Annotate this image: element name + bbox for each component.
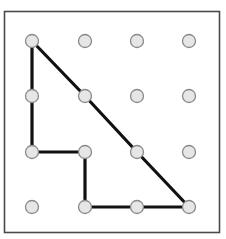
peg-r3-c1 [79,201,92,214]
peg-r2-c1 [79,146,92,159]
peg-r0-c1 [79,35,92,48]
peg-r3-c2 [131,201,144,214]
peg-r3-c0 [26,201,39,214]
geoboard [0,0,226,239]
peg-r0-c3 [183,35,196,48]
peg-r2-c2 [131,146,144,159]
peg-r1-c2 [131,90,144,103]
peg-r2-c0 [26,146,39,159]
polygon-shape [32,41,189,207]
peg-r0-c2 [131,35,144,48]
peg-r1-c0 [26,90,39,103]
peg-r3-c3 [183,201,196,214]
peg-r1-c1 [79,90,92,103]
peg-r0-c0 [26,35,39,48]
peg-r1-c3 [183,90,196,103]
peg-r2-c3 [183,146,196,159]
